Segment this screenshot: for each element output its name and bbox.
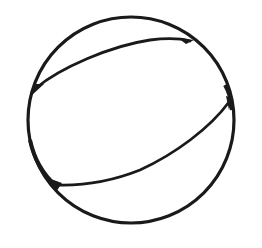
- ball-outline: [28, 17, 234, 223]
- drawing-canvas: beach ball line drawing: [0, 0, 262, 248]
- lower-seam: [58, 102, 229, 185]
- outline-accent-left: [30, 140, 56, 186]
- beach-ball-icon: [0, 0, 262, 248]
